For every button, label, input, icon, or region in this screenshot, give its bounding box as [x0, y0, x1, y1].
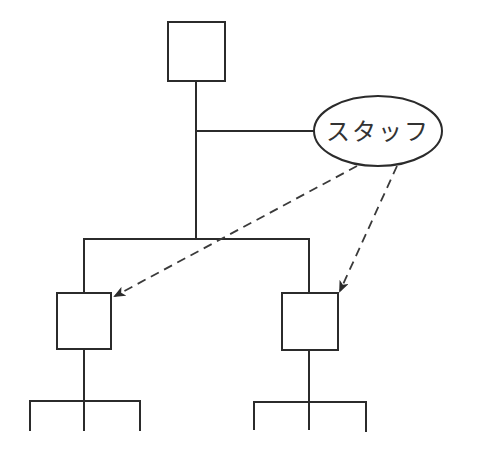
staff-to-right-arrow: [340, 166, 397, 291]
staff-label: スタッフ: [326, 118, 430, 146]
org-chart: スタッフ: [0, 0, 483, 464]
right-subordinate-box: [282, 293, 338, 350]
left-subordinate-box: [57, 293, 111, 349]
staff-to-left-arrow: [115, 166, 357, 296]
top-manager-box: [168, 22, 225, 81]
